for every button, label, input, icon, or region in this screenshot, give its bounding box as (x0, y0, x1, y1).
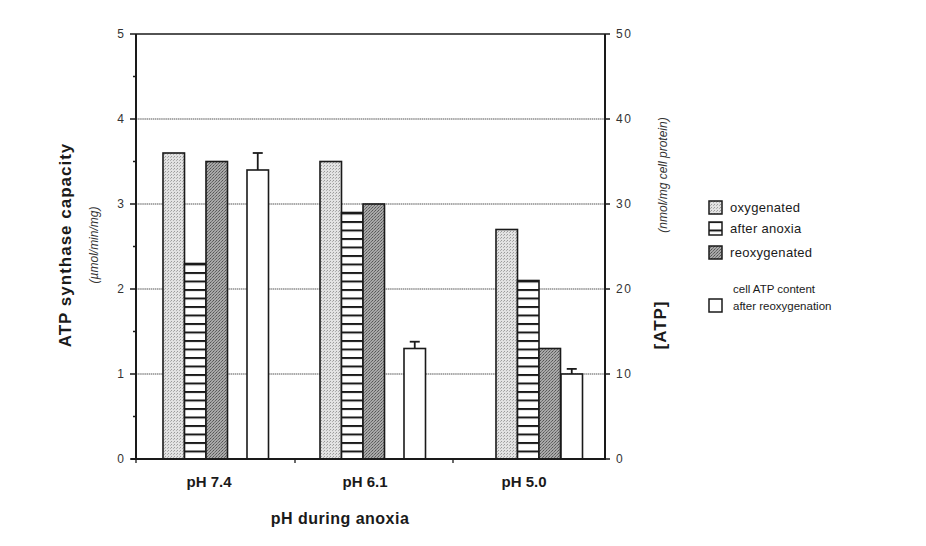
bar-reoxygenated (539, 349, 561, 460)
bar-reoxygenated (206, 162, 228, 460)
legend-label-atp-line2: after reoxygenation (733, 300, 831, 312)
legend-label-reoxygenated: reoxygenated (730, 245, 812, 260)
y2-axis-title: [ATP] (651, 300, 670, 349)
y2-tick-label: 50 (616, 27, 632, 41)
bar-cell-atp-content-after-reoxygenation (561, 374, 583, 459)
bar-oxygenated (163, 153, 185, 459)
y2-tick-label: 0 (616, 452, 624, 466)
y-tick-label: 4 (117, 112, 124, 126)
x-category-label: pH 6.1 (342, 473, 387, 490)
legend-swatch-oxygenated (709, 201, 722, 214)
legend-label-after-anoxia: after anoxia (730, 221, 802, 236)
y-axis-unit: (µmol/min/mg) (87, 207, 101, 284)
bar-reoxygenated (363, 204, 385, 459)
x-category-label: pH 7.4 (186, 473, 232, 490)
y2-tick-label: 40 (616, 112, 632, 126)
bars (163, 153, 583, 459)
y-axis-left-ticks: 012345 (117, 27, 124, 466)
bar-oxygenated (320, 162, 342, 460)
legend-label-atp-line1: cell ATP content (733, 283, 816, 295)
bar-cell-atp-content-after-reoxygenation (247, 170, 269, 459)
y-tick-label: 2 (117, 282, 124, 296)
y2-tick-label: 30 (616, 197, 632, 211)
bar-after-anoxia (518, 281, 540, 460)
y-tick-label: 0 (117, 452, 124, 466)
y2-tick-label: 20 (616, 282, 632, 296)
legend-swatch-reoxygenated (709, 246, 722, 259)
y2-tick-label: 10 (616, 367, 632, 381)
legend-swatch-atp-content (709, 299, 722, 312)
y-tick-label: 5 (117, 27, 124, 41)
y-tick-label: 3 (117, 197, 124, 211)
bar-chart: 012345 01020304050 pH 7.4pH 6.1pH 5.0 pH… (0, 0, 926, 546)
legend-label-oxygenated: oxygenated (730, 200, 800, 215)
bar-after-anoxia (185, 264, 207, 460)
bar-after-anoxia (342, 213, 364, 460)
y-axis-title: ATP synthase capacity (56, 143, 75, 348)
y-tick-label: 1 (117, 367, 124, 381)
bar-oxygenated (496, 230, 518, 460)
x-axis-title: pH during anoxia (271, 510, 410, 527)
x-category-label: pH 5.0 (501, 473, 546, 490)
bar-cell-atp-content-after-reoxygenation (404, 349, 426, 460)
y-axis-right-ticks: 01020304050 (616, 27, 632, 466)
y2-axis-unit: (nmol/mg cell protein) (656, 117, 670, 232)
legend: oxygenated after anoxia reoxygenated cel… (709, 200, 831, 312)
legend-swatch-after-anoxia (709, 222, 722, 235)
x-axis-categories: pH 7.4pH 6.1pH 5.0 (186, 473, 546, 490)
